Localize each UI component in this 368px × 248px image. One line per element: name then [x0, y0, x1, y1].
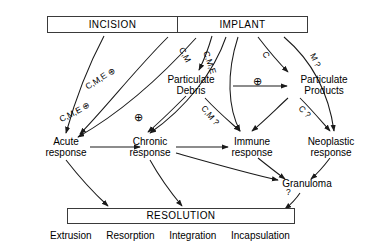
node-soluble-products[interactable]: Particulate Products [288, 74, 360, 96]
acute-response-line2: response [26, 147, 106, 158]
particulate-debris-line1: Particulate [167, 74, 214, 85]
soluble-products-line2: Products [288, 85, 360, 96]
node-particulate-debris[interactable]: Particulate Debris [150, 74, 232, 96]
chronic-response-line2: response [110, 147, 190, 158]
chronic-response-line1: Chronic [133, 136, 167, 147]
edge-debris-chronic [148, 96, 186, 132]
box-incision-label: INCISION [89, 20, 137, 30]
node-immune-response[interactable]: Immune response [212, 136, 292, 158]
edge-neoplastic-granuloma [311, 158, 330, 179]
circled-plus-icon-chronic: ⊕ [134, 112, 143, 123]
immune-response-line2: response [212, 147, 292, 158]
outcome-extrusion: Extrusion [50, 230, 92, 241]
outcome-resorption: Resorption [106, 230, 154, 241]
box-implant[interactable]: IMPLANT [177, 16, 308, 33]
neoplastic-response-line1: Neoplastic [308, 136, 355, 147]
outcome-integration: Integration [169, 230, 216, 241]
node-acute-response[interactable]: Acute response [26, 136, 106, 158]
immune-response-line1: Immune [234, 136, 270, 147]
edge-chronic-resolution [150, 160, 182, 206]
acute-response-line1: Acute [53, 136, 79, 147]
box-implant-label: IMPLANT [219, 20, 265, 30]
circled-plus-icon-debris-soluble: ⊕ [253, 76, 262, 87]
box-resolution-label: RESOLUTION [146, 211, 215, 221]
edge-acute-resolution [66, 160, 108, 206]
node-neoplastic-response[interactable]: Neoplastic response [294, 136, 368, 158]
granuloma-question-annotation: ? [286, 188, 291, 197]
outcome-incapsulation: Incapsulation [231, 230, 290, 241]
neoplastic-response-line2: response [294, 147, 368, 158]
edge-soluble-immune [252, 98, 288, 131]
outcomes-row: Extrusion Resorption Integration Incapsu… [50, 230, 330, 241]
node-chronic-response[interactable]: Chronic response [110, 136, 190, 158]
diagram-canvas: INCISION IMPLANT Particulate Debris Part… [0, 0, 368, 248]
particulate-debris-line2: Debris [150, 85, 232, 96]
node-granuloma[interactable]: Granuloma [272, 178, 342, 189]
soluble-products-line1: Particulate [300, 74, 347, 85]
box-resolution[interactable]: RESOLUTION [67, 208, 295, 224]
box-incision[interactable]: INCISION [47, 16, 178, 33]
